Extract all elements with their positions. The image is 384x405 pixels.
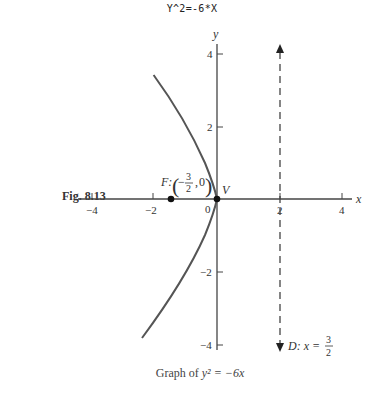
y-tick-label: 2 [207,121,213,133]
svg-text:): ) [205,173,212,198]
svg-text:F:: F: [160,175,172,189]
svg-text:D: x =: D: x = [287,339,320,353]
y-tick-label: −4 [200,339,212,351]
x-tick-label: −4 [86,204,98,216]
x-axis-label: x [355,192,362,206]
svg-text:−: − [178,175,185,189]
arrow-up-icon [276,44,284,53]
arrow-down-icon [276,343,284,352]
svg-text:2: 2 [186,183,191,194]
svg-text:,: , [195,175,198,189]
vertex-label: V [222,183,231,197]
figure-caption: Graph of y² = −6x [0,366,384,381]
svg-text:3: 3 [186,171,191,182]
plot-area: −4 −2 0 2 4 4 2 −2 −4 x y F: ( − 3 2 , 0… [0,0,384,405]
svg-text:2: 2 [326,347,331,358]
focus-label: F: ( − 3 2 , 0 ) [160,171,212,198]
y-tick-label: −2 [200,266,212,278]
directrix-label: D: x = 3 2 [287,334,333,358]
y-axis-label: y [212,27,219,41]
x-tick-label: 0 [205,203,211,215]
svg-text:3: 3 [326,334,331,345]
x-tick-label: 4 [339,204,345,216]
vertex-point [214,196,221,203]
y-tick-label: 4 [207,48,213,60]
x-tick-label: −2 [145,204,157,216]
